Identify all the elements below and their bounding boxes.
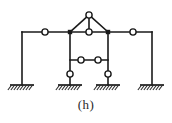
members-group (22, 15, 152, 85)
truss-right-rafter (89, 15, 108, 32)
hinge-top-beam-left-midspan (42, 29, 48, 35)
joint-top-right-inner (106, 30, 110, 34)
hinge-truss-base-center (86, 29, 92, 35)
hinge-apex (86, 12, 92, 18)
hinge-inner-right-column-base (105, 71, 111, 77)
figure-caption: (h) (0, 97, 172, 113)
hinge-top-beam-right-midspan (130, 29, 136, 35)
hinge-middle-beam-right (95, 57, 101, 63)
supports-group (8, 85, 164, 90)
hinge-middle-beam-left (78, 57, 84, 63)
hinge-inner-left-column-base (67, 71, 73, 77)
truss-left-rafter (70, 15, 89, 32)
figure-container: (h) (0, 0, 172, 123)
joint-top-left-inner (68, 30, 72, 34)
